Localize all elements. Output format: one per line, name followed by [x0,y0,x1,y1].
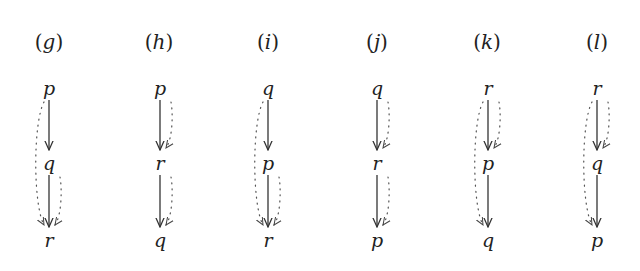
edges-layer [0,0,640,271]
node-h-top: p [154,79,166,98]
node-j-middle: r [372,154,381,173]
panel-label-i: (i) [257,32,279,52]
dotted-arrow-i-p-r [274,177,280,225]
node-l-top: r [592,79,601,98]
panel-label-h: (h) [145,32,174,52]
node-l-middle: q [591,154,603,173]
diagram-canvas: (g) p q r (h) p r q (i) q p r (j) q r p … [0,0,640,271]
dotted-arrow-h-p-r [166,102,172,148]
panel-label-j: (j) [366,32,388,52]
dotted-arrow-j-q-r [383,102,389,148]
node-i-middle: p [262,154,274,173]
node-i-bottom: r [263,231,272,250]
dotted-arrow-j-r-p [383,177,389,225]
node-k-top: r [483,79,492,98]
node-j-top: q [371,79,383,98]
panel-label-k: (k) [473,32,501,52]
panel-label-g: (g) [35,32,63,52]
node-k-bottom: q [482,231,494,250]
node-h-middle: r [155,154,164,173]
node-h-bottom: q [154,231,166,250]
node-j-bottom: p [371,231,383,250]
panel-label-l: (l) [586,32,608,52]
node-g-bottom: r [44,231,53,250]
node-g-top: p [43,79,55,98]
dotted-arrow-l-r-q [603,102,609,148]
dotted-arrow-g-q-r [55,177,61,225]
dotted-arrow-h-r-q [166,177,172,225]
dotted-arrow-k-r-p [494,102,500,148]
node-l-bottom: p [591,231,603,250]
node-i-top: q [262,79,274,98]
node-k-middle: p [482,154,494,173]
node-g-middle: q [43,154,55,173]
